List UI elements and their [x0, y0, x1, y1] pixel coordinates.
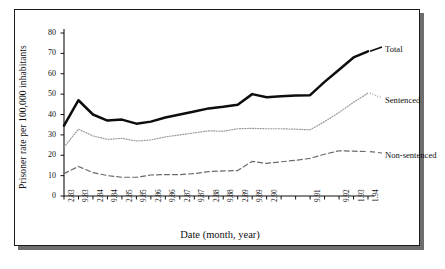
- x-tick-label: 2.90: [270, 189, 279, 202]
- plot-container: Prisoner rate per 100,000 inhabitants Da…: [0, 0, 445, 269]
- y-tick-label: 40: [34, 110, 56, 119]
- x-tick-label: 2.86: [154, 189, 163, 202]
- x-tick-label: 2.89: [241, 189, 250, 202]
- x-tick-label: 2.87: [183, 189, 192, 202]
- x-tick-label: 9.87: [197, 189, 206, 202]
- series-label-total: Total: [385, 44, 403, 54]
- series-line-total: [64, 51, 368, 125]
- x-axis-title: Date (month, year): [120, 229, 320, 240]
- figure-page: Prisoner rate per 100,000 inhabitants Da…: [0, 0, 445, 269]
- y-axis-title: Prisoner rate per 100,000 inhabitants: [18, 32, 28, 202]
- leader-line-sentenced: [370, 93, 382, 98]
- x-tick-label: 9.84: [110, 189, 119, 202]
- series-label-sentenced: Sentenced: [385, 95, 420, 105]
- x-tick-label: 9.89: [255, 189, 264, 202]
- x-tick-label: 9.92: [342, 189, 351, 202]
- x-tick-label: 2.88: [212, 189, 221, 202]
- x-tick-label: 9.83: [81, 189, 90, 202]
- series-line-non-sentenced: [64, 151, 368, 177]
- label-leader-lines: [370, 47, 382, 153]
- x-tick-label: 9.91: [313, 189, 322, 202]
- x-tick-label: 1.93: [357, 189, 366, 202]
- leader-line-non-sentenced: [370, 152, 382, 153]
- y-tick-label: 20: [34, 150, 56, 159]
- x-tick-label: 2.85: [125, 189, 134, 202]
- y-tick-label: 30: [34, 130, 56, 139]
- series-group: [64, 51, 368, 177]
- axes-group: [61, 29, 375, 200]
- x-tick-label: 1.94: [371, 189, 380, 202]
- y-tick-label: 50: [34, 89, 56, 98]
- y-tick-label: 0: [34, 191, 56, 200]
- leader-line-total: [370, 47, 382, 51]
- y-tick-label: 10: [34, 171, 56, 180]
- y-tick-label: 80: [34, 28, 56, 37]
- y-tick-label: 60: [34, 69, 56, 78]
- x-tick-label: 9.88: [226, 189, 235, 202]
- x-tick-label: 2.84: [96, 189, 105, 202]
- y-tick-label: 70: [34, 48, 56, 57]
- x-tick-label: 9.86: [168, 189, 177, 202]
- x-tick-label: 2.83: [67, 189, 76, 202]
- x-tick-label: 9.85: [139, 189, 148, 202]
- series-label-non-sentenced: Non-sentenced: [385, 150, 437, 160]
